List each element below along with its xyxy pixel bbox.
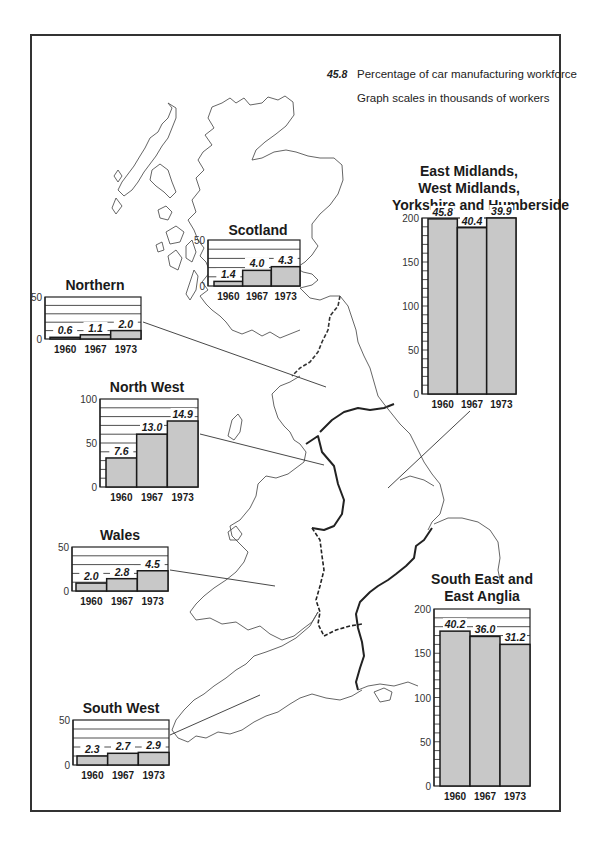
bar-1967 <box>107 579 138 591</box>
bar-1973 <box>487 218 516 394</box>
regional-boundary-north <box>320 404 394 432</box>
south-coastline <box>358 682 418 690</box>
chart-title: South East andEast Anglia <box>420 571 544 605</box>
chart-title: South West <box>73 700 169 717</box>
y-tick-label: 0 <box>36 334 42 345</box>
y-tick-label: 200 <box>402 213 419 224</box>
chart-title-line: Wales <box>72 527 168 544</box>
bar-1960 <box>50 337 80 339</box>
year-label: 1960 <box>80 596 103 607</box>
year-label: 1967 <box>84 344 107 355</box>
legend-percentage-label: Percentage of car manufacturing workforc… <box>357 68 577 80</box>
bar-1973 <box>167 421 198 487</box>
outer-hebrides <box>118 103 176 196</box>
chart-title-line: South East and <box>420 571 544 588</box>
bar-1973 <box>137 571 168 591</box>
chart-title-line: Yorkshire and Humberside <box>392 197 546 214</box>
scotland-england-border <box>292 296 340 376</box>
year-label: 1967 <box>141 492 164 503</box>
leader-line-north-west <box>200 434 324 465</box>
percent-label: 7.6 <box>114 445 129 457</box>
leader-line-northern <box>143 322 326 387</box>
percent-label: 1.4 <box>221 268 236 280</box>
y-tick-label: 50 <box>86 438 98 449</box>
northeast-coastline <box>310 296 384 404</box>
bar-1973 <box>111 331 141 339</box>
year-label: 1973 <box>142 596 165 607</box>
year-label: 1960 <box>444 791 467 802</box>
bar-1967 <box>243 270 272 286</box>
chart-midlands-yorkshire: East Midlands,West Midlands,Yorkshire an… <box>422 218 516 394</box>
y-tick-label: 50 <box>420 737 432 748</box>
percent-label: 2.8 <box>114 566 130 578</box>
legend-row-scale: Graph scales in thousands of workers <box>327 86 577 110</box>
chart-title-line: North West <box>92 379 202 396</box>
regional-boundary-west <box>306 436 344 530</box>
bar-1960 <box>214 281 243 286</box>
bar-1960 <box>77 756 108 765</box>
chart-wales: Wales2.019602.819674.51973050 <box>72 547 168 591</box>
chart-title-line: Scotland <box>208 222 308 239</box>
bar-1967 <box>470 636 500 786</box>
percent-label: 2.3 <box>84 743 100 755</box>
islay-jura <box>168 250 182 270</box>
chart-title-line: Northern <box>45 277 145 294</box>
year-label: 1973 <box>275 291 298 302</box>
chart-south-west: South West2.319602.719672.91973050 <box>73 720 169 765</box>
chart-south-east-east-anglia: South East andEast Anglia40.2196036.0196… <box>434 609 530 786</box>
bar-1967 <box>457 228 486 394</box>
bar-1967 <box>137 434 168 487</box>
y-tick-label: 0 <box>91 482 97 493</box>
bar-1960 <box>106 458 137 487</box>
year-label: 1967 <box>474 791 497 802</box>
chart-north-west: North West7.6196013.0196714.91973050100 <box>100 399 198 487</box>
y-tick-label: 50 <box>31 292 43 303</box>
chart-title-line: East Midlands, <box>392 163 546 180</box>
legend-scale-note: Graph scales in thousands of workers <box>357 92 549 104</box>
year-label: 1967 <box>112 770 135 781</box>
year-label: 1967 <box>246 291 269 302</box>
percent-label: 4.5 <box>144 558 160 570</box>
percent-label: 39.9 <box>491 205 512 217</box>
y-tick-label: 0 <box>413 389 419 400</box>
percent-label: 4.0 <box>249 257 265 269</box>
bar-1973 <box>271 267 300 286</box>
bar-1960 <box>428 219 457 394</box>
y-tick-label: 200 <box>414 604 431 615</box>
chart-scotland: Scotland1.419604.019674.31973050 <box>208 240 300 286</box>
percent-label: 1.1 <box>88 322 103 334</box>
bar-1973 <box>138 752 169 765</box>
y-tick-label: 50 <box>59 715 71 726</box>
legend-row-percentage: 45.8 Percentage of car manufacturing wor… <box>327 62 577 86</box>
year-label: 1973 <box>504 791 527 802</box>
y-tick-label: 150 <box>402 257 419 268</box>
chart-title: North West <box>92 379 202 396</box>
percent-label: 40.2 <box>444 618 466 630</box>
year-label: 1967 <box>461 399 484 410</box>
percent-label: 4.3 <box>277 254 293 266</box>
northwest-coastline <box>272 376 306 468</box>
y-tick-label: 100 <box>402 301 419 312</box>
year-label: 1973 <box>490 399 513 410</box>
chart-northern: Northern0.619601.119672.01973050 <box>45 297 141 339</box>
percent-label: 14.9 <box>172 408 193 420</box>
percent-label: 36.0 <box>475 623 496 635</box>
percent-label: 45.8 <box>431 206 453 218</box>
isle-of-wight <box>374 688 392 702</box>
east-anglia-coastline <box>434 518 500 570</box>
year-label: 1967 <box>111 596 134 607</box>
regional-boundary-southwest <box>312 528 362 636</box>
chart-title-line: South West <box>73 700 169 717</box>
y-tick-label: 0 <box>63 586 69 597</box>
y-tick-label: 100 <box>80 394 97 405</box>
leader-line-midlands <box>388 411 470 488</box>
chart-title: Scotland <box>208 222 308 239</box>
year-label: 1960 <box>81 770 104 781</box>
percent-label: 2.9 <box>145 739 161 751</box>
percent-label: 0.6 <box>58 324 73 336</box>
percent-label: 2.0 <box>118 318 134 330</box>
chart-title: Wales <box>72 527 168 544</box>
chart-title: Northern <box>45 277 145 294</box>
legend-sample-value: 45.8 <box>327 68 357 80</box>
percent-label: 13.0 <box>142 421 163 433</box>
